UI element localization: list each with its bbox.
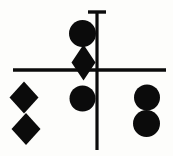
center-bottom-circle (70, 86, 96, 112)
right-lower-circle (133, 110, 160, 137)
figure-canvas (0, 0, 173, 156)
right-upper-circle (134, 85, 160, 111)
glyph-composition-svg (0, 0, 173, 156)
center-top-circle (69, 20, 96, 47)
